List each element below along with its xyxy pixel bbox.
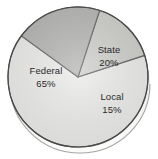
pie-label-local-name: Local xyxy=(100,91,123,102)
pie-chart-canvas: Federal 65% State 20% Local 15% xyxy=(0,0,158,159)
pie-label-local-value: 15% xyxy=(102,104,122,115)
pie-paper-tint xyxy=(8,7,148,147)
pie-label-federal-name: Federal xyxy=(30,65,63,76)
pie-chart-figure: Federal 65% State 20% Local 15% xyxy=(0,0,158,159)
pie-label-federal-value: 65% xyxy=(36,78,56,89)
pie-label-state-value: 20% xyxy=(99,57,119,68)
pie-label-state-name: State xyxy=(98,44,121,55)
